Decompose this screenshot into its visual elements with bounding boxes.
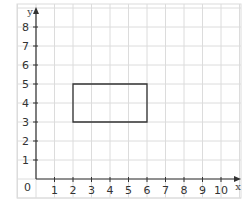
x-tick-label: 4: [107, 184, 114, 197]
x-tick-label: 6: [144, 184, 151, 197]
x-tick-label: 1: [51, 184, 58, 197]
x-tick-label: 10: [214, 184, 228, 197]
y-tick-label: 6: [22, 59, 29, 72]
y-tick-label: 7: [22, 40, 29, 53]
x-tick-label: 5: [125, 184, 132, 197]
x-tick-label: 8: [181, 184, 188, 197]
x-tick-label: 2: [70, 184, 77, 197]
y-tick-label: 2: [22, 135, 29, 148]
y-tick-label: 5: [22, 78, 29, 91]
axes: [33, 7, 241, 182]
y-tick-label: 3: [22, 116, 29, 129]
x-axis-label: x: [235, 181, 241, 192]
x-tick-label: 3: [88, 184, 95, 197]
x-tick-label: 7: [162, 184, 169, 197]
grid-lines: [17, 4, 241, 198]
coordinate-grid: 12345678910123456780xy: [0, 0, 250, 216]
y-tick-label: 1: [22, 154, 29, 167]
x-tick-label: 9: [199, 184, 206, 197]
y-tick-label: 8: [22, 21, 29, 34]
y-tick-label: 4: [22, 97, 29, 110]
origin-label: 0: [24, 181, 31, 194]
y-axis-label: y: [26, 6, 33, 17]
